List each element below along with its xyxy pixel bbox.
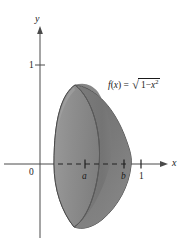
radical-expression: √1−x2 [131, 78, 160, 91]
x-tick-label-b: b [121, 172, 126, 182]
radicand: 1−x2 [138, 78, 161, 90]
function-equals: = [124, 80, 129, 90]
origin-label: 0 [29, 168, 34, 178]
radicand-exponent: 2 [155, 78, 158, 85]
solid-of-revolution [54, 84, 131, 229]
x-tick-label-1: 1 [139, 172, 144, 182]
function-close-paren: ) [118, 80, 121, 90]
x-tick-label-a: a [82, 172, 87, 182]
y-tick-label-1: 1 [29, 61, 34, 71]
solid-of-revolution-figure: y x 1 0 a b 1 f(x) = √1−x2 [0, 0, 188, 252]
y-axis [35, 26, 45, 238]
x-axis-label: x [172, 158, 176, 168]
figure-canvas [0, 0, 188, 252]
y-axis-label: y [35, 14, 39, 24]
function-label: f(x) = √1−x2 [108, 78, 160, 91]
